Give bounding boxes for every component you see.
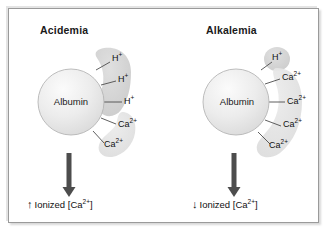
ion-species: Ca xyxy=(104,139,116,149)
ion-label-ca-3: Ca2+ xyxy=(283,119,302,129)
ion-label-ca-1: Ca2+ xyxy=(282,72,301,82)
ion-charge: 2+ xyxy=(295,117,302,124)
outcome-text-end: ] xyxy=(90,199,93,210)
ion-species: Ca xyxy=(118,119,130,129)
outcome-charge: 2+ xyxy=(83,198,90,205)
outcome-charge: 2+ xyxy=(248,198,255,205)
ion-charge: + xyxy=(279,50,283,57)
ion-label-ca-2: Ca2+ xyxy=(104,139,123,149)
direction-arrow-glyph: ↑ xyxy=(27,198,35,210)
outcome-text-end: ] xyxy=(255,199,258,210)
ion-charge: 2+ xyxy=(294,70,301,77)
ion-label-h-1: H+ xyxy=(112,53,122,63)
panel-title-acidemia: Acidemia xyxy=(40,24,88,36)
ion-species: Ca xyxy=(269,140,281,150)
ion-charge: 2+ xyxy=(281,138,288,145)
figure-canvas: Acidemia Alkalemia Albumin Albumin H+ H+… xyxy=(0,0,336,239)
albumin-label-acidemia: Albumin xyxy=(36,96,106,107)
ion-charge: + xyxy=(125,72,129,79)
direction-arrow-glyph: ↓ xyxy=(192,198,200,210)
outcome-text: Ionized [Ca xyxy=(35,199,83,210)
ion-label-ca-2: Ca2+ xyxy=(287,96,306,106)
ion-label-ca-4: Ca2+ xyxy=(269,140,288,150)
outcome-text: Ionized [Ca xyxy=(200,199,248,210)
ion-label-h-3: H+ xyxy=(124,96,134,106)
ion-label-h-2: H+ xyxy=(118,74,128,84)
ion-charge: + xyxy=(119,51,123,58)
outcome-caption-acidemia: ↑Ionized [Ca2+] xyxy=(27,198,93,210)
outcome-caption-alkalemia: ↓Ionized [Ca2+] xyxy=(192,198,258,210)
ion-charge: + xyxy=(131,94,135,101)
downward-arrow-left xyxy=(63,153,76,197)
ion-species: Ca xyxy=(283,119,295,129)
ion-charge: 2+ xyxy=(299,94,306,101)
downward-arrow-right xyxy=(228,153,241,197)
ion-charge: 2+ xyxy=(116,137,123,144)
ion-label-ca-1: Ca2+ xyxy=(118,119,137,129)
ion-label-h-1: H+ xyxy=(272,52,282,62)
ion-species: Ca xyxy=(287,96,299,106)
ion-species: Ca xyxy=(282,72,294,82)
panel-title-alkalemia: Alkalemia xyxy=(206,24,257,36)
ion-charge: 2+ xyxy=(130,117,137,124)
albumin-label-alkalemia: Albumin xyxy=(202,96,272,107)
